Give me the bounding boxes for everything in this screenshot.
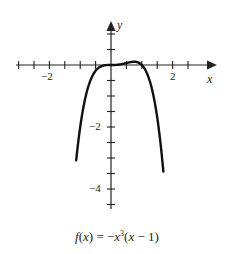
ticks [19, 34, 188, 205]
x-axis-arrow-icon [207, 61, 217, 70]
x-tick-label-2: 2 [170, 71, 176, 82]
y-tick-label-neg4: −4 [89, 183, 101, 194]
function-curve [76, 62, 163, 172]
function-caption: f(x) = −x3(x − 1) [0, 229, 234, 245]
y-axis-label: y [117, 19, 122, 31]
y-axis-arrow-icon [107, 21, 116, 31]
x-tick-label-neg2: −2 [41, 71, 53, 82]
function-graph [0, 0, 234, 254]
y-tick-label-neg2: −2 [89, 121, 101, 132]
axes [16, 28, 210, 209]
x-axis-label: x [207, 73, 212, 85]
